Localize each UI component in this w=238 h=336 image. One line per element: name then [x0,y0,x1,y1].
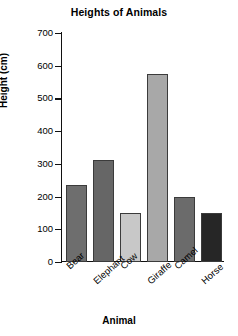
bar-series [62,33,224,262]
y-tick-label: 500 [3,94,53,104]
y-tick-label: 700 [3,28,53,38]
y-tick-mark [55,66,61,67]
bar-chart: Heights of Animals Height (cm) 700600500… [0,0,238,336]
y-tick-label: 100 [3,225,53,235]
x-axis-category-labels: BearElephantCowGiraffeCamelHorse [62,263,238,315]
y-tick-label: 0 [3,257,53,267]
y-tick-mark [55,164,61,165]
y-tick-mark [55,229,61,230]
y-tick-mark [55,98,61,99]
y-tick-mark [55,131,61,132]
bar-horse [201,213,222,262]
y-tick-label: 300 [3,159,53,169]
y-tick-label: 600 [3,61,53,71]
bar-elephant [93,160,114,262]
y-tick-label: 400 [3,126,53,136]
y-tick-label: 200 [3,192,53,202]
x-axis-title: Animal [0,315,238,326]
y-tick-mark [55,33,61,34]
chart-title: Heights of Animals [0,6,238,18]
y-tick-mark [55,262,61,263]
category-label-giraffe: Giraffe [145,259,173,286]
y-tick-mark [55,197,61,198]
bar-giraffe [147,74,168,262]
category-label-horse: Horse [199,261,225,286]
